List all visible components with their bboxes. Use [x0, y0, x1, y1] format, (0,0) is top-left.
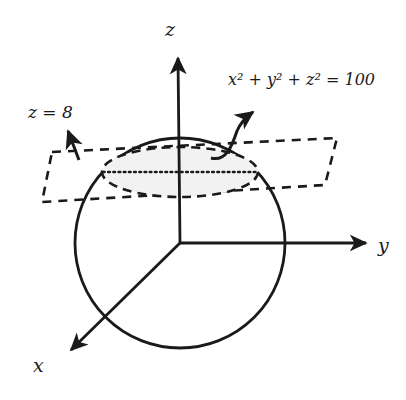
- z-axis-label: z: [165, 20, 175, 39]
- plane-equation-leader-arrow: [68, 131, 79, 160]
- plane-equation-label: z = 8: [28, 104, 73, 121]
- z-axis-line: [178, 58, 180, 243]
- x-axis-label: x: [33, 356, 44, 375]
- y-axis-label: y: [378, 236, 389, 255]
- diagram-canvas: [0, 0, 406, 400]
- sphere-equation-label: x² + y² + z² = 100: [228, 72, 375, 88]
- sphere-plane-diagram: z y x z = 8 x² + y² + z² = 100: [0, 0, 406, 400]
